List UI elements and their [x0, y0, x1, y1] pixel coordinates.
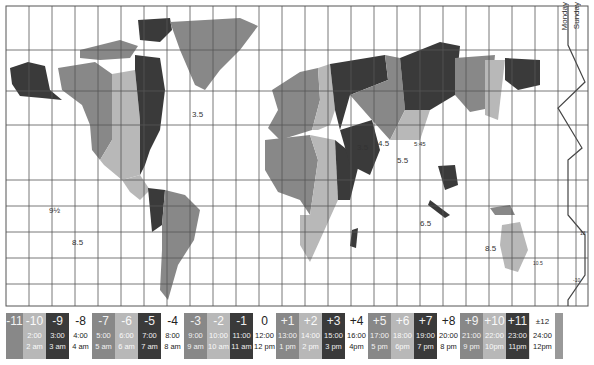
- legend-cell: -93:003 am: [46, 313, 69, 359]
- offset-label: -4: [167, 313, 178, 330]
- day-label-monday: Monday: [560, 2, 569, 30]
- offset-label: -7: [98, 313, 109, 330]
- legend-cell: +214:002 pm: [299, 313, 322, 359]
- offset-label: +3: [327, 313, 341, 330]
- annotation: 8.5: [485, 244, 496, 253]
- annotation: 13: [580, 230, 586, 236]
- offset-label: +4: [350, 313, 364, 330]
- time-24h: 9:00: [188, 330, 203, 341]
- time-12h: 6 am: [118, 341, 135, 352]
- offset-label: -5: [144, 313, 155, 330]
- time-24h: 12:00: [255, 330, 274, 341]
- legend-cell: ±1224:0012pm: [529, 313, 555, 359]
- legend-cell: +1123:0011pm: [506, 313, 529, 359]
- time-12h: 1 pm: [279, 341, 296, 352]
- time-24h: 8:00: [165, 330, 180, 341]
- legend-cell: +618:006pm: [391, 313, 414, 359]
- legend-cell: -75:005 am: [92, 313, 115, 359]
- legend-cell: -102:002 am: [23, 313, 46, 359]
- legend-cell: +820:008 pm: [437, 313, 460, 359]
- time-12h: 4 am: [72, 341, 89, 352]
- offset-label: +1: [281, 313, 295, 330]
- offset-label: +11: [508, 313, 527, 330]
- offset-label: +2: [304, 313, 318, 330]
- time-24h: 6:00: [119, 330, 134, 341]
- world-time-zone-map: [0, 0, 594, 365]
- time-24h: 22:00: [485, 330, 504, 341]
- annotation: 3.5: [192, 110, 203, 119]
- legend-cell: +1022:0010pm: [483, 313, 506, 359]
- legend-cell: 012:0012 pm: [253, 313, 276, 359]
- time-12h: 12pm: [533, 341, 552, 352]
- time-24h: 2:00: [27, 330, 42, 341]
- offset-label: -6: [121, 313, 132, 330]
- legend-cell: -111:0011 am: [230, 313, 253, 359]
- legend-cell: +416:004pm: [345, 313, 368, 359]
- annotation: 5.5: [397, 156, 408, 165]
- offset-label: +8: [442, 313, 456, 330]
- time-12h: 12 pm: [254, 341, 275, 352]
- offset-label: +9: [465, 313, 479, 330]
- legend-cell: +719:007 pm: [414, 313, 437, 359]
- time-12h: 7 am: [141, 341, 158, 352]
- time-12h: 9 am: [187, 341, 204, 352]
- time-12h: 7 pm: [417, 341, 434, 352]
- offset-label: 0: [261, 313, 268, 330]
- annotation: 10.5: [533, 260, 543, 266]
- legend-cell: -48:008 am: [161, 313, 184, 359]
- offset-label: +10: [484, 313, 504, 330]
- time-12h: 8 pm: [440, 341, 457, 352]
- time-24h: 21:00: [462, 330, 481, 341]
- legend-cell: -11: [6, 313, 23, 359]
- offset-label: +7: [419, 313, 433, 330]
- time-24h: 17:00: [370, 330, 389, 341]
- time-24h: 10:00: [209, 330, 228, 341]
- offset-label: -9: [52, 313, 63, 330]
- time-12h: 8 am: [164, 341, 181, 352]
- time-24h: 14:00: [301, 330, 320, 341]
- legend-cell: -84:004 am: [69, 313, 92, 359]
- time-24h: 19:00: [416, 330, 435, 341]
- time-24h: 20:00: [439, 330, 458, 341]
- time-24h: 4:00: [73, 330, 88, 341]
- time-24h: 23:00: [508, 330, 527, 341]
- annotation: -10: [573, 277, 580, 283]
- time-24h: 11:00: [232, 330, 250, 341]
- time-24h: 18:00: [393, 330, 412, 341]
- offset-label: +5: [373, 313, 387, 330]
- legend-cell: +921:009 pm: [460, 313, 483, 359]
- time-12h: 2 am: [26, 341, 43, 352]
- time-12h: 10 am: [208, 341, 229, 352]
- legend-cell: -66:006 am: [115, 313, 138, 359]
- time-24h: 3:00: [50, 330, 65, 341]
- time-12h: 5 am: [95, 341, 112, 352]
- time-12h: 10pm: [485, 341, 504, 352]
- annotation: 6.5: [420, 219, 431, 228]
- time-24h: 7:00: [142, 330, 157, 341]
- time-zone-legend: -11 -102:002 am -93:003 am -84:004 am -7…: [6, 313, 563, 359]
- time-24h: 13:00: [278, 330, 297, 341]
- offset-label: -2: [213, 313, 224, 330]
- time-12h: 2 pm: [302, 341, 319, 352]
- time-24h: 24:00: [533, 330, 552, 341]
- legend-cell: +315:003 pm: [322, 313, 345, 359]
- offset-label: -11: [6, 313, 22, 330]
- time-12h: 5 pm: [371, 341, 388, 352]
- legend-cell: +517:005 pm: [368, 313, 391, 359]
- time-24h: 15:00: [324, 330, 343, 341]
- legend-cell: -57:007 am: [138, 313, 161, 359]
- legend-cell: +113:001 pm: [276, 313, 299, 359]
- offset-label: -8: [75, 313, 86, 330]
- time-12h: 9 pm: [463, 341, 480, 352]
- offset-label: +6: [396, 313, 410, 330]
- time-24h: 5:00: [96, 330, 111, 341]
- annotation: 8.5: [72, 238, 83, 247]
- time-24h: 16:00: [347, 330, 366, 341]
- annotation: 9½: [49, 206, 60, 215]
- time-12h: 11pm: [508, 341, 526, 352]
- offset-label: -10: [26, 313, 43, 330]
- time-12h: 11 am: [231, 341, 251, 352]
- time-12h: 3 am: [49, 341, 66, 352]
- annotation: 4.5: [378, 139, 389, 148]
- legend-cell: -39:009 am: [184, 313, 207, 359]
